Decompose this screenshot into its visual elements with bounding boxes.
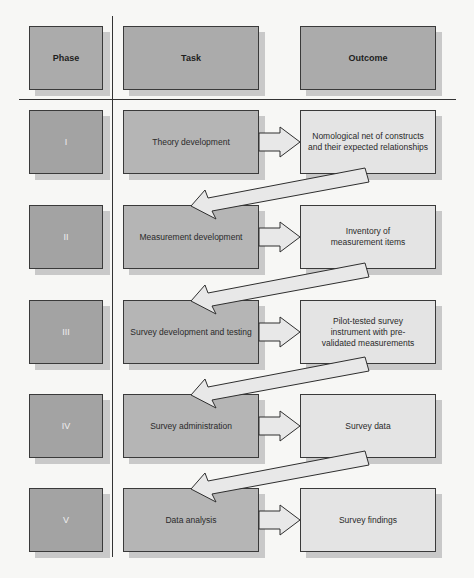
outcome-box-5: Survey findings	[300, 488, 436, 552]
header-phase: Phase	[29, 26, 103, 90]
phase-box-2: II	[29, 205, 103, 269]
arrow-right-icon	[259, 505, 300, 535]
arrow-right-icon	[259, 317, 300, 347]
outcome-box-2: Inventory of measurement items	[300, 205, 436, 269]
arrow-right-icon	[259, 411, 300, 441]
outcome-box-1: Nomological net of constructs and their …	[300, 110, 436, 174]
phase-box-3: III	[29, 300, 103, 364]
task-box-1: Theory development	[123, 110, 259, 174]
header-divider	[19, 99, 456, 100]
arrow-right-icon	[259, 222, 300, 252]
task-box-3: Survey development and testing	[123, 300, 259, 364]
outcome-box-4: Survey data	[300, 394, 436, 458]
task-box-5: Data analysis	[123, 488, 259, 552]
task-box-2: Measurement development	[123, 205, 259, 269]
phase-box-4: IV	[29, 394, 103, 458]
outcome-box-3: Pilot-tested survey instrument with pre-…	[300, 300, 436, 364]
phase-box-1: I	[29, 110, 103, 174]
phase-box-5: V	[29, 488, 103, 552]
column-divider	[112, 16, 113, 557]
header-task: Task	[123, 26, 259, 90]
arrow-right-icon	[259, 127, 300, 157]
header-outcome: Outcome	[300, 26, 436, 90]
task-box-4: Survey administration	[123, 394, 259, 458]
